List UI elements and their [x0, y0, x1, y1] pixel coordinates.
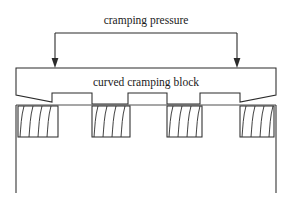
right-arrow-head-icon [234, 58, 241, 68]
left-arrow-head-icon [52, 58, 59, 68]
hatched-block [92, 106, 130, 137]
hatched-block [167, 106, 202, 137]
hatched-block [18, 106, 58, 137]
block-label: curved cramping block [93, 76, 199, 89]
pressure-bracket [52, 33, 241, 68]
cramping-pressure-diagram: cramping pressure curved cramping block [0, 0, 292, 199]
curved-cramping-block: curved cramping block [16, 68, 276, 104]
hatched-block [240, 106, 274, 137]
pressure-label: cramping pressure [104, 14, 189, 27]
diagram-canvas: cramping pressure curved cramping block [0, 0, 292, 199]
